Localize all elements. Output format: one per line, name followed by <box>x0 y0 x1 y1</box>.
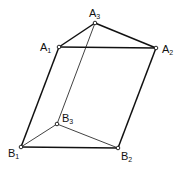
vertex-label-a1: A1 <box>40 42 51 54</box>
vertex-label-a2: A2 <box>162 44 173 56</box>
edge-a2-b2 <box>118 48 156 148</box>
edge-a3-a2 <box>95 23 156 48</box>
vertex-label-a3: A3 <box>89 8 100 20</box>
edge-a1-a3 <box>59 23 95 47</box>
vertex-b2-point <box>116 146 120 150</box>
vertex-label-b3: B3 <box>62 113 73 125</box>
edge-b3-b2 <box>57 124 118 148</box>
edge-b1-b3 <box>21 124 57 147</box>
vertex-a1-point <box>57 45 61 49</box>
vertex-label-b2: B2 <box>121 151 132 163</box>
edge-b1-b2 <box>21 147 118 148</box>
vertex-b3-point <box>55 122 59 126</box>
vertex-b1-point <box>19 145 23 149</box>
vertex-label-b1: B1 <box>8 148 19 160</box>
edge-a3-b3 <box>57 23 95 124</box>
prism-diagram <box>0 0 186 170</box>
vertex-a3-point <box>93 21 97 25</box>
vertex-a2-point <box>154 46 158 50</box>
edge-a1-b1 <box>21 47 59 147</box>
edge-a1-a2 <box>59 47 156 48</box>
